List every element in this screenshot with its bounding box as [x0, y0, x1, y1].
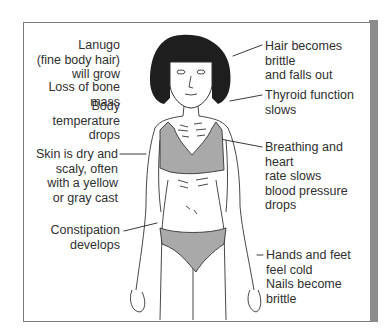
label-skin: Skin is dry and scaly, often with a yell… [26, 147, 118, 205]
leader-hair [233, 45, 262, 56]
leader-thyroid [230, 95, 262, 101]
label-lanugo: Lanugo (fine body hair) will grow [30, 38, 120, 82]
label-body-temperature: Body temperature drops [26, 99, 120, 143]
underwear [160, 228, 226, 272]
label-hair: Hair becomes brittle and falls out [265, 39, 369, 83]
label-thyroid: Thyroid function slows [265, 88, 369, 117]
leader-constipation [124, 223, 157, 231]
label-hands-feet: Hands and feet feel cold Nails become br… [266, 248, 370, 306]
label-breathing: Breathing and heart rate slows blood pre… [265, 140, 369, 213]
bra [160, 122, 224, 174]
face [170, 62, 212, 108]
label-constipation: Constipation develops [26, 223, 120, 252]
